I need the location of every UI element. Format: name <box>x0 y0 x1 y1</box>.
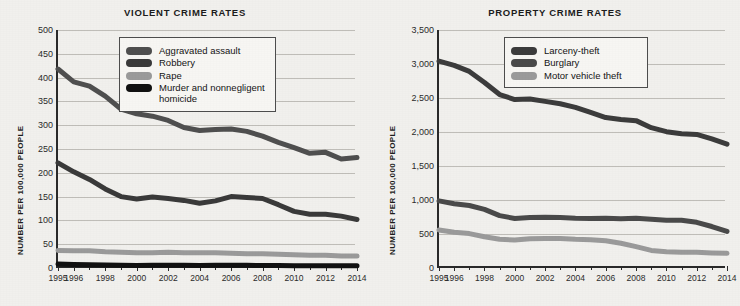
legend-item[interactable]: Murder and nonnegligent homicide <box>126 82 268 104</box>
y-axis-label-property: NUMBER PER 100,000 PEOPLE <box>388 125 397 255</box>
legend-item[interactable]: Larceny-theft <box>511 45 640 56</box>
series-line <box>439 201 727 232</box>
x-tick-label: 2008 <box>627 273 646 283</box>
legend-item[interactable]: Motor vehicle theft <box>511 70 640 81</box>
legend-label: Murder and nonnegligent homicide <box>159 82 265 104</box>
legend-swatch-icon <box>511 47 537 55</box>
legend-label: Larceny-theft <box>544 45 599 56</box>
panel-property-crime: PROPERTY CRIME RATES NUMBER PER 100,000 … <box>370 0 740 306</box>
x-tick-label: 2012 <box>316 273 335 283</box>
legend-swatch-icon <box>511 59 537 67</box>
legend-swatch-icon <box>126 72 152 80</box>
x-tick-label: 2002 <box>536 273 555 283</box>
x-tick-label: 2008 <box>253 273 272 283</box>
series-line <box>58 264 357 266</box>
y-axis-label-violent: NUMBER PER 100,000 PEOPLE <box>16 125 25 255</box>
x-tick-label: 2006 <box>596 273 615 283</box>
y-tick-label: 250 <box>38 144 53 154</box>
legend-property[interactable]: Larceny-theftBurglaryMotor vehicle theft <box>504 37 648 88</box>
y-tick-label: 150 <box>38 192 53 202</box>
legend-item[interactable]: Burglary <box>511 57 640 68</box>
x-tick-mark <box>727 266 728 271</box>
y-tick-label: 2,000 <box>411 127 434 137</box>
x-tick-label: 1998 <box>96 273 115 283</box>
x-tick-label: 2014 <box>718 273 737 283</box>
x-tick-label: 1996 <box>445 273 464 283</box>
y-tick-label: 200 <box>38 168 53 178</box>
y-tick-label: 500 <box>38 25 53 35</box>
legend-label: Aggravated assault <box>159 45 240 56</box>
y-tick-label: 500 <box>419 229 434 239</box>
legend-label: Rape <box>159 70 182 81</box>
y-tick-label: 50 <box>43 239 53 249</box>
legend-violent[interactable]: Aggravated assaultRobberyRapeMurder and … <box>119 37 276 112</box>
y-tick-label: 3,000 <box>411 59 434 69</box>
series-line <box>58 250 357 256</box>
x-tick-label: 2010 <box>657 273 676 283</box>
x-tick-label: 2002 <box>159 273 178 283</box>
y-tick-label: 1,500 <box>411 161 434 171</box>
y-tick-label: 100 <box>38 215 53 225</box>
x-tick-label: 1998 <box>475 273 494 283</box>
panel-violent-crime: VIOLENT CRIME RATES NUMBER PER 100,000 P… <box>0 0 370 306</box>
y-tick-label: 1,000 <box>411 195 434 205</box>
legend-swatch-icon <box>126 84 152 92</box>
y-tick-label: 350 <box>38 96 53 106</box>
page-title-violent: VIOLENT CRIME RATES <box>0 7 370 18</box>
y-tick-label: 450 <box>38 49 53 59</box>
x-tick-label: 2004 <box>566 273 585 283</box>
y-tick-label: 400 <box>38 73 53 83</box>
x-tick-label: 2004 <box>190 273 209 283</box>
x-tick-label: 2006 <box>222 273 241 283</box>
legend-item[interactable]: Aggravated assault <box>126 45 268 56</box>
series-line <box>58 163 357 220</box>
legend-swatch-icon <box>511 72 537 80</box>
y-tick-label: 0 <box>429 263 434 273</box>
legend-swatch-icon <box>126 59 152 67</box>
x-tick-label: 2012 <box>687 273 706 283</box>
legend-item[interactable]: Rape <box>126 70 268 81</box>
x-tick-label: 2000 <box>505 273 524 283</box>
legend-label: Robbery <box>159 57 195 68</box>
x-tick-label: 2010 <box>285 273 304 283</box>
page-title-property: PROPERTY CRIME RATES <box>370 7 740 18</box>
y-tick-label: 300 <box>38 120 53 130</box>
x-tick-label: 1996 <box>64 273 83 283</box>
legend-swatch-icon <box>126 47 152 55</box>
y-tick-label: 2,500 <box>411 93 434 103</box>
legend-label: Motor vehicle theft <box>544 70 622 81</box>
legend-label: Burglary <box>544 57 579 68</box>
x-tick-label: 2000 <box>127 273 146 283</box>
y-tick-label: 3,500 <box>411 25 434 35</box>
legend-item[interactable]: Robbery <box>126 57 268 68</box>
x-tick-label: 2014 <box>348 273 367 283</box>
series-line <box>439 230 727 253</box>
chart-page: VIOLENT CRIME RATES NUMBER PER 100,000 P… <box>0 0 740 306</box>
y-tick-label: 0 <box>48 263 53 273</box>
